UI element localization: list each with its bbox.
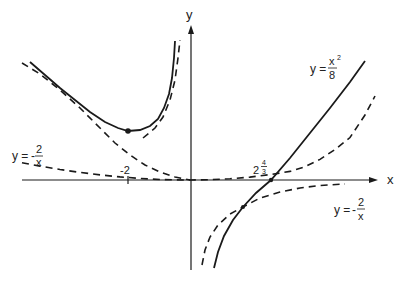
x-axis-label: x [387, 172, 394, 187]
y-axis-label: y [186, 7, 193, 22]
root-label-whole: 2 [253, 164, 259, 176]
svg-text:x: x [36, 156, 42, 168]
root-label-index-den: 3 [262, 168, 266, 175]
sum-curve-left [30, 41, 175, 131]
svg-text:x: x [329, 55, 335, 67]
svg-text:y =: y = [12, 149, 28, 163]
tick-label-neg-two: -2 [120, 164, 130, 176]
x-axis-arrow-icon [369, 177, 378, 183]
x-intercept-point [269, 178, 273, 182]
svg-text:8: 8 [329, 69, 335, 81]
svg-text:2: 2 [36, 143, 42, 155]
root-label-index-num: 4 [262, 159, 266, 166]
intersection-point [241, 205, 245, 209]
svg-text:-: - [352, 203, 356, 217]
svg-text:2: 2 [358, 196, 364, 208]
hyperbola-right-branch [202, 184, 345, 265]
function-graph: y x -2 2 4 3 y = x 2 8 y = - 2 x y = - 2… [0, 0, 403, 282]
svg-text:y =: y = [310, 62, 326, 76]
parabola-curve-exact [22, 96, 375, 180]
svg-text:2: 2 [337, 54, 341, 61]
y-axis-arrow-icon [188, 25, 194, 34]
parabola-label: y = x 2 8 [310, 54, 341, 81]
svg-text:y =: y = [334, 203, 350, 217]
svg-text:x: x [358, 210, 364, 222]
hyperbola-right-label: y = - 2 x [334, 196, 365, 222]
local-minimum-point [125, 128, 131, 134]
sum-curve-right [214, 61, 365, 268]
svg-text:-: - [31, 149, 35, 163]
